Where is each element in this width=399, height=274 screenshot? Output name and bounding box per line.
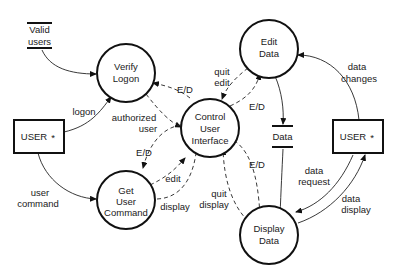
store-label-line2: users xyxy=(28,36,51,47)
flow-edit-to-data-store xyxy=(275,76,283,124)
terminator-label: USER xyxy=(340,131,367,142)
terminator-marker: * xyxy=(370,132,374,143)
process-edit-data: Edit Data xyxy=(240,20,298,78)
store-label-line1: Valid xyxy=(29,24,49,35)
flow-label-edit: edit xyxy=(165,173,181,184)
flow-label-data-request-line1: data xyxy=(305,165,324,176)
flow-label-display: display xyxy=(160,201,190,212)
terminator-user-left: USER * xyxy=(14,120,64,153)
flow-label-authorized-user-line2: user xyxy=(139,123,157,134)
flow-label-data-display-line1: data xyxy=(342,193,361,204)
flow-label-ed-verify: E/D xyxy=(177,84,193,95)
flow-label-quit-display-line2: display xyxy=(199,199,229,210)
flow-label-data-display-line2: display xyxy=(341,204,371,215)
flow-quit-display xyxy=(223,149,248,221)
flow-label-data-changes-line1: data xyxy=(348,61,367,72)
flow-label-logon: logon xyxy=(72,106,95,117)
flow-ed-to-display xyxy=(228,137,260,217)
flow-label-ed-display: E/D xyxy=(249,159,265,170)
process-label-line2: Data xyxy=(259,48,280,59)
process-get-user-command: Get User Command xyxy=(97,171,155,229)
process-label-line1: Verify xyxy=(114,61,138,72)
flow-valid-users-to-verify xyxy=(42,50,96,74)
store-valid-users: Valid users xyxy=(27,23,52,48)
terminator-label: USER xyxy=(21,131,48,142)
process-label-line1: Get xyxy=(118,185,134,196)
process-display-data: Display Data xyxy=(240,206,298,264)
data-flow-diagram: Valid users Data Verify Logon Edit Data … xyxy=(0,0,399,274)
process-label-line2: Logon xyxy=(113,73,139,84)
flow-label-quit-edit-line2: edit xyxy=(214,77,230,88)
flow-label-data-changes-line2: changes xyxy=(341,73,377,84)
flow-label-ed-get-command: E/D xyxy=(136,147,152,158)
process-label-line1: Control xyxy=(195,111,226,122)
process-label-line2: User xyxy=(116,196,136,207)
flow-label-ed-edit: E/D xyxy=(249,101,265,112)
flow-label-authorized-user-line1: authorized xyxy=(112,112,156,123)
terminator-user-right: USER * xyxy=(333,120,383,153)
store-label: Data xyxy=(272,131,293,142)
flow-label-data-request-line2: request xyxy=(298,176,330,187)
flow-label-user-command-line1: user xyxy=(31,187,49,198)
process-label-line1: Edit xyxy=(261,36,278,47)
flow-label-quit-edit-line1: quit xyxy=(214,66,230,77)
terminator-marker: * xyxy=(51,132,55,143)
flow-label-quit-display-line1: quit xyxy=(211,188,227,199)
process-control-user-interface: Control User Interface xyxy=(181,99,239,157)
process-label-line2: Data xyxy=(259,235,280,246)
process-label-line3: Command xyxy=(104,207,148,218)
flow-label-user-command-line2: command xyxy=(17,198,59,209)
process-label-line1: Display xyxy=(253,223,284,234)
flow-data-store-to-display xyxy=(280,149,283,216)
flow-display xyxy=(157,145,197,199)
process-label-line3: Interface xyxy=(192,135,229,146)
process-label-line2: User xyxy=(200,123,220,134)
store-data: Data xyxy=(272,126,293,147)
process-verify-logon: Verify Logon xyxy=(97,44,155,102)
